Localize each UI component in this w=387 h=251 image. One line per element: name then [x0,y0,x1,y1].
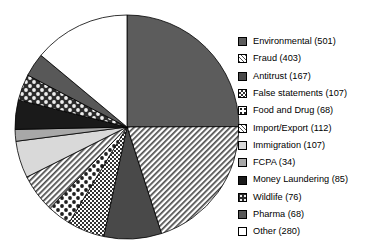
legend-item-antitrust: Antitrust (167) [238,68,387,85]
chart-legend: Environmental (501)Fraud (403)Antitrust … [238,33,387,241]
legend-item-import-export: Import/Export (112) [238,119,387,136]
legend-swatch-fraud [238,54,247,63]
pie-chart-figure: Environmental (501)Fraud (403)Antitrust … [0,0,387,251]
legend-item-food-and-drug: Food and Drug (68) [238,102,387,119]
legend-label-false-statements: False statements (107) [253,89,347,98]
legend-label-antitrust: Antitrust (167) [253,72,311,81]
legend-label-food-and-drug: Food and Drug (68) [253,106,333,115]
legend-swatch-wildlife [238,193,247,202]
legend-item-fraud: Fraud (403) [238,50,387,67]
legend-label-import-export: Import/Export (112) [253,124,331,133]
legend-item-wildlife: Wildlife (76) [238,189,387,206]
legend-swatch-other [238,227,247,236]
legend-swatch-antitrust [238,72,247,81]
legend-item-pharma: Pharma (68) [238,206,387,223]
pie-slice-environmental [127,15,239,127]
legend-label-pharma: Pharma (68) [253,210,304,219]
pie-slices [15,15,239,239]
legend-item-immigration: Immigration (107) [238,137,387,154]
legend-swatch-money-laundering [238,176,247,185]
legend-item-false-statements: False statements (107) [238,85,387,102]
legend-item-other: Other (280) [238,223,387,240]
legend-label-wildlife: Wildlife (76) [253,193,302,202]
legend-swatch-immigration [238,141,247,150]
legend-label-fraud: Fraud (403) [253,54,301,63]
legend-swatch-environmental [238,37,247,46]
legend-item-fcpa: FCPA (34) [238,154,387,171]
legend-item-environmental: Environmental (501) [238,33,387,50]
legend-item-money-laundering: Money Laundering (85) [238,171,387,188]
legend-label-money-laundering: Money Laundering (85) [253,175,348,184]
legend-label-fcpa: FCPA (34) [253,158,295,167]
legend-label-environmental: Environmental (501) [253,37,336,46]
legend-swatch-import-export [238,124,247,133]
legend-swatch-false-statements [238,89,247,98]
legend-swatch-food-and-drug [238,106,247,115]
legend-swatch-fcpa [238,158,247,167]
legend-swatch-pharma [238,210,247,219]
legend-label-immigration: Immigration (107) [253,141,325,150]
legend-label-other: Other (280) [253,227,300,236]
